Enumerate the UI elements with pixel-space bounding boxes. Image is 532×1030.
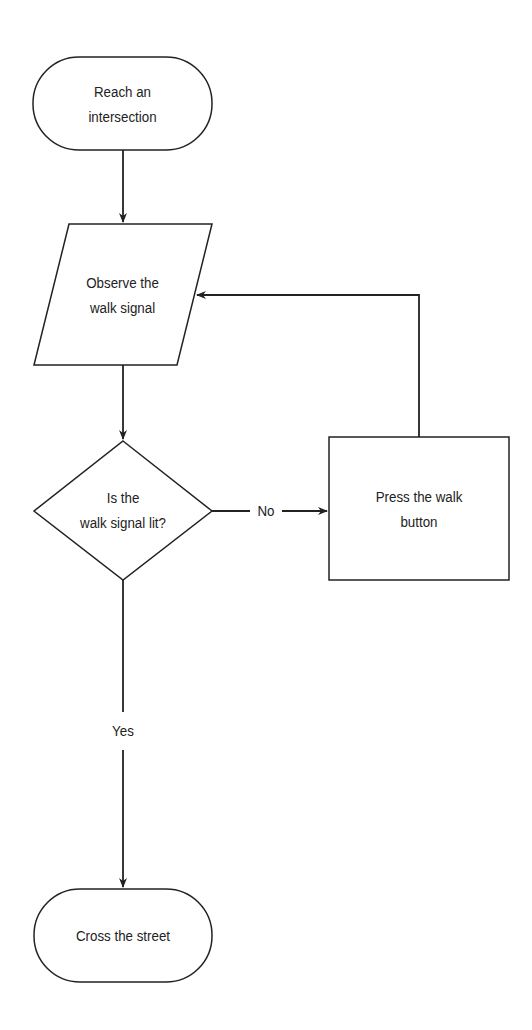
edge-label-yes: Yes (106, 721, 140, 741)
decision-question-label: Is the walk signal lit? (55, 460, 191, 560)
observe-step-label: Observe the walk signal (60, 224, 185, 365)
end-terminal-label: Cross the street (46, 889, 199, 982)
press-step-label: Press the walk button (342, 437, 497, 580)
edge-label-no: No (252, 501, 280, 521)
start-terminal-label: Reach an intersection (46, 57, 200, 150)
edge-press-to-observe (197, 295, 419, 437)
